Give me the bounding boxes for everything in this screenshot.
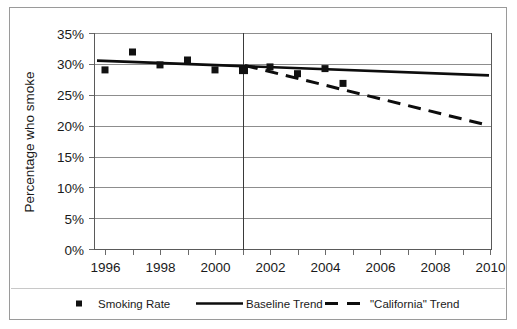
data-point-2000: [212, 66, 219, 73]
data-point-1997: [129, 49, 136, 56]
x-tick-label-2002: 2002: [255, 260, 285, 275]
y-tick-label-10: 10%: [57, 181, 84, 196]
y-tick-label-15: 15%: [57, 150, 84, 165]
data-point-2003: [294, 70, 301, 77]
x-tick-marks: [106, 250, 491, 255]
data-point-1998: [157, 61, 164, 68]
y-tick-label-25: 25%: [57, 88, 84, 103]
data-point-2005: [340, 80, 347, 87]
data-point-2004: [322, 65, 329, 72]
data-point-2002: [267, 63, 274, 70]
x-tick-label-2000: 2000: [200, 260, 230, 275]
y-tick-label-5: 5%: [64, 212, 84, 227]
chart-canvas: Percentage who smoke 35% 30% 25% 20% 15%…: [0, 0, 517, 329]
y-tick-label-20: 20%: [57, 119, 84, 134]
y-axis-title: Percentage who smoke: [22, 71, 37, 212]
x-tick-label-1996: 1996: [90, 260, 120, 275]
y-tick-label-35: 35%: [57, 27, 84, 42]
legend-label-baseline-trend: Baseline Trend: [246, 298, 323, 310]
x-tick-label-2008: 2008: [420, 260, 450, 275]
baseline-trend-line: [97, 61, 489, 76]
data-point-2001: [239, 65, 248, 74]
legend-square-marker-icon: [76, 301, 82, 307]
data-point-1999: [184, 57, 191, 64]
y-tick-label-30: 30%: [57, 57, 84, 72]
legend-label-california-trend: "California" Trend: [370, 298, 459, 310]
data-point-1996: [102, 66, 109, 73]
x-tick-labels: 1996 1998 2000 2002 2004 2006 2008 2010: [90, 260, 505, 275]
y-tick-labels: 35% 30% 25% 20% 15% 10% 5% 0%: [57, 27, 84, 258]
y-tick-marks: [89, 34, 94, 250]
y-tick-label-0: 0%: [64, 243, 84, 258]
legend-label-smoking-rate: Smoking Rate: [98, 298, 170, 310]
x-tick-label-2004: 2004: [310, 260, 341, 275]
chart-legend: Smoking Rate Baseline Trend "California"…: [76, 298, 459, 310]
chart-container: Percentage who smoke 35% 30% 25% 20% 15%…: [0, 0, 517, 329]
x-tick-label-1998: 1998: [145, 260, 175, 275]
gridlines: [94, 34, 492, 219]
x-tick-label-2006: 2006: [365, 260, 395, 275]
x-tick-label-2010: 2010: [475, 260, 505, 275]
